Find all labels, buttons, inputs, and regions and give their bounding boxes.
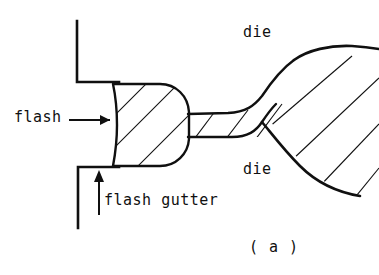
flash-leader-arrow [69, 115, 110, 125]
flash-label: flash [14, 108, 62, 126]
workpiece-body [262, 46, 379, 206]
figure-caption: ( a ) [249, 238, 299, 256]
die-label-bottom: die [243, 160, 272, 178]
flash-body [100, 80, 210, 204]
diagram-canvas [0, 0, 379, 275]
die-label-top: die [243, 23, 272, 41]
upper-die-outline [77, 21, 119, 82]
flash-gutter-label: flash gutter [104, 191, 218, 209]
neck-channel [186, 60, 294, 152]
flash-gutter-leader-arrow [94, 170, 104, 215]
forging-die-figure: flash flash gutter die die ( a ) [0, 0, 379, 275]
